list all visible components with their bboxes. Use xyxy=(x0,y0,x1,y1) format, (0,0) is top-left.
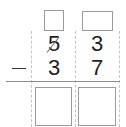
borrow-box-ones[interactable] xyxy=(82,11,113,31)
bottom-tens-digit: 3 xyxy=(46,57,62,79)
top-ones-digit: 3 xyxy=(89,33,105,55)
result-line xyxy=(6,81,120,82)
bottom-ones-digit: 7 xyxy=(89,57,105,79)
column-guide-middle xyxy=(75,31,76,127)
column-guide-right xyxy=(119,31,120,127)
answer-box-ones[interactable] xyxy=(78,87,116,126)
minus-sign xyxy=(12,68,26,69)
column-guide-left xyxy=(31,31,32,127)
borrow-box-tens[interactable] xyxy=(44,10,64,31)
answer-box-tens[interactable] xyxy=(35,87,72,126)
